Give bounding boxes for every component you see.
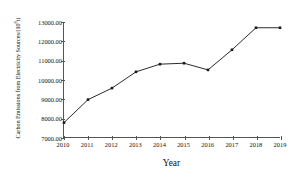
x-axis-tick-mark (281, 136, 282, 140)
x-axis-tick-mark (185, 136, 186, 140)
x-axis-tick-mark (112, 136, 113, 140)
x-axis-title: Year (63, 157, 280, 169)
y-axis-tick-label: 9000.00 (20, 96, 62, 103)
data-point-marker (63, 121, 66, 124)
data-point-marker (231, 48, 234, 51)
x-axis-tick-mark (136, 136, 137, 140)
y-axis-tick-mark (61, 119, 65, 120)
y-axis-tick-label: 12000.00 (20, 38, 62, 45)
plot-area (63, 22, 280, 138)
x-axis-tick-mark (257, 136, 258, 140)
line-chart-figure: Carbon Emissions from Electricity Source… (0, 0, 291, 179)
y-axis-tick-mark (61, 22, 65, 23)
data-point-marker (135, 71, 138, 74)
data-point-marker (255, 26, 258, 29)
x-axis-tick-labels: 2010201120122013201420152016201720182019 (63, 141, 280, 153)
series-line (64, 28, 280, 123)
series-markers (63, 26, 282, 123)
y-axis-tick-label: 11000.00 (20, 57, 62, 64)
data-point-marker (207, 69, 210, 72)
y-axis-tick-mark (61, 99, 65, 100)
x-axis-tick-mark (233, 136, 234, 140)
x-axis-tick-label: 2019 (263, 141, 291, 149)
y-axis-tick-mark (61, 61, 65, 62)
x-axis-tick-mark (88, 136, 89, 140)
data-point-marker (87, 98, 90, 101)
data-point-marker (159, 63, 162, 66)
x-axis-tick-mark (160, 136, 161, 140)
x-axis-tick-mark (209, 136, 210, 140)
y-axis-tick-labels: 7000.008000.009000.0010000.0011000.00120… (18, 0, 62, 179)
y-axis-tick-mark (61, 80, 65, 81)
y-axis-tick-label: 8000.00 (20, 115, 62, 122)
data-point-marker (279, 26, 282, 29)
data-point-marker (111, 87, 114, 90)
y-axis-tick-label: 10000.00 (20, 77, 62, 84)
data-series-layer (64, 22, 280, 137)
y-axis-tick-label: 13000.00 (20, 19, 62, 26)
x-axis-tick-mark (64, 136, 65, 140)
data-point-marker (183, 62, 186, 65)
y-axis-tick-mark (61, 41, 65, 42)
